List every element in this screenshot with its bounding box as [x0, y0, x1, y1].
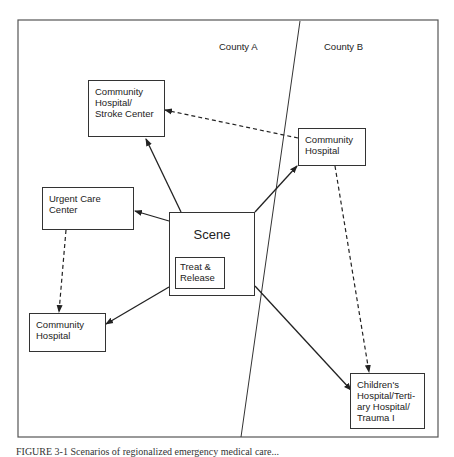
urgent-care-node: Urgent Care Center: [42, 187, 134, 230]
county-a-label: County A: [219, 41, 258, 52]
county-b-label: County B: [324, 41, 363, 52]
scene-title: Scene: [170, 229, 254, 240]
community-hospital-b-node: Community Hospital: [298, 128, 366, 166]
stroke-center-node: Community Hospital/ Stroke Center: [88, 80, 165, 137]
figure-caption: FIGURE 3-1 Scenarios of regionalized eme…: [16, 446, 279, 457]
treat-release-node: Treat & Release: [175, 257, 225, 289]
scene-node: Scene Treat & Release: [169, 212, 255, 296]
community-hospital-a-node: Community Hospital: [29, 313, 106, 352]
childrens-hospital-node: Children's Hospital/Terti- ary Hospital/…: [350, 373, 425, 429]
